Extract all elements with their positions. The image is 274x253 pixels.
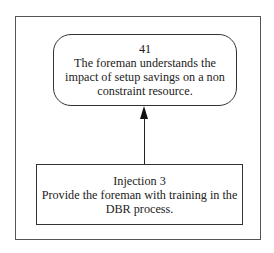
effect-node-text-line-1: The foreman understands the: [74, 56, 216, 70]
effect-node-text-line-2: impact of setup savings on a non: [65, 70, 225, 84]
injection-node-3: Injection 3 Provide the foreman with tra…: [36, 164, 243, 225]
injection-node-label: Injection 3: [113, 174, 165, 188]
injection-node-text-line-1: Provide the foreman with training in the: [42, 188, 238, 202]
effect-node-id: 41: [139, 42, 151, 56]
effect-node-text-line-3: constraint resource.: [97, 84, 192, 98]
connector-arrow-line: [144, 118, 145, 164]
effect-node-41: 41 The foreman understands the impact of…: [53, 34, 237, 106]
injection-node-text-line-2: DBR process.: [106, 202, 174, 216]
